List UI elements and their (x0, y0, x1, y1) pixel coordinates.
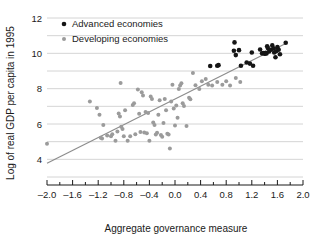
data-point (182, 104, 186, 108)
data-point (45, 142, 49, 146)
data-point (220, 83, 224, 87)
data-point (204, 77, 208, 81)
data-point (224, 79, 228, 83)
x-tick-label: –1.6 (63, 189, 82, 200)
data-point (234, 76, 238, 80)
data-point (160, 135, 164, 139)
data-point (126, 139, 130, 143)
data-point (193, 83, 197, 87)
data-point (185, 124, 189, 128)
x-tick-label: –2.0 (38, 189, 57, 200)
data-point (176, 116, 180, 120)
data-point (188, 97, 192, 101)
data-point (164, 108, 168, 112)
data-point (153, 123, 157, 127)
data-point (251, 63, 256, 68)
data-point (250, 50, 255, 55)
data-point (234, 53, 239, 58)
data-point (88, 99, 92, 103)
data-point (197, 87, 201, 91)
data-point (105, 133, 109, 137)
data-point (168, 146, 172, 150)
data-point (174, 103, 178, 107)
data-point (200, 79, 204, 83)
data-point (132, 101, 136, 105)
data-point (156, 113, 160, 117)
data-point (147, 139, 151, 143)
data-point (206, 83, 210, 87)
x-tick-label: 1.2 (245, 189, 258, 200)
data-point (232, 40, 237, 45)
y-tick-label: 12 (31, 13, 42, 24)
x-tick-label: 0.0 (168, 189, 181, 200)
x-tick-label: 0.8 (220, 189, 233, 200)
data-point (191, 71, 195, 75)
legend-label-developing: Developing economies (72, 33, 168, 44)
legend-marker-advanced (62, 22, 67, 27)
x-tick-label: 0.4 (194, 189, 207, 200)
data-point (119, 81, 123, 85)
data-point (237, 48, 242, 53)
data-point (146, 111, 150, 115)
data-point (238, 80, 242, 84)
data-point (115, 129, 119, 133)
data-point (97, 113, 101, 117)
data-point (123, 108, 127, 112)
data-point (100, 136, 104, 140)
y-tick-label: 4 (37, 154, 42, 165)
data-point (179, 81, 183, 85)
data-point (215, 80, 219, 84)
x-tick-label: –1.2 (89, 189, 108, 200)
data-point (208, 64, 213, 69)
x-tick-label: 2.0 (296, 189, 309, 200)
data-point (141, 93, 145, 97)
data-point (128, 134, 132, 138)
data-point (177, 87, 181, 91)
data-point (137, 112, 141, 116)
x-tick-label: –0.8 (115, 189, 134, 200)
x-axis-title: Aggregate governance measure (105, 223, 248, 234)
data-point (161, 121, 165, 125)
x-tick-label: –0.4 (140, 189, 159, 200)
data-point (150, 97, 154, 101)
data-point (138, 130, 142, 134)
y-tick-label: 10 (31, 48, 42, 59)
data-point (133, 132, 137, 136)
data-point (163, 97, 167, 101)
data-point (273, 55, 278, 60)
data-point (228, 83, 232, 87)
scatter-plot-figure: –2.0–1.6–1.2–0.8–0.40.00.40.81.21.62.0 4… (0, 0, 311, 240)
data-point (155, 131, 159, 135)
data-point (113, 139, 117, 143)
data-point (283, 40, 288, 45)
data-point (278, 52, 283, 57)
data-point (216, 63, 221, 68)
data-point (210, 83, 214, 87)
data-point (95, 106, 99, 110)
y-axis-title: Log of real GDP per capita in 1995 (5, 26, 16, 180)
data-point (169, 99, 173, 103)
legend-label-advanced: Advanced economies (72, 18, 163, 29)
data-point (136, 88, 140, 92)
y-tick-label: 8 (37, 83, 42, 94)
chart-canvas: –2.0–1.6–1.2–0.8–0.40.00.40.81.21.62.0 4… (0, 0, 311, 240)
data-point (170, 83, 174, 87)
data-point (110, 132, 114, 136)
data-point (167, 133, 171, 137)
data-point (239, 63, 244, 68)
data-point (121, 127, 125, 131)
data-point (232, 48, 237, 53)
data-point (101, 123, 105, 127)
y-tick-label: 6 (37, 119, 42, 130)
data-point (158, 98, 162, 102)
legend-marker-developing (62, 37, 66, 41)
data-point (145, 131, 149, 135)
x-tick-label: 1.6 (271, 189, 284, 200)
data-point (118, 115, 122, 119)
data-point (173, 123, 177, 127)
data-point (276, 48, 281, 53)
data-point (122, 134, 126, 138)
